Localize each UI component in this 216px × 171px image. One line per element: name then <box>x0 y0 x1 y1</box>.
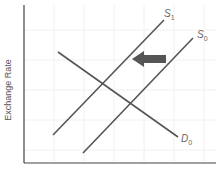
y-axis-label: Exchange Rate <box>1 60 15 120</box>
s0-label: S0 <box>197 29 208 42</box>
shift-left-arrow-icon <box>132 51 166 67</box>
demand-curve-d0 <box>58 52 178 137</box>
supply-curve-s1 <box>53 20 164 135</box>
s1-label: S1 <box>164 8 175 21</box>
d0-label: D0 <box>181 133 192 146</box>
